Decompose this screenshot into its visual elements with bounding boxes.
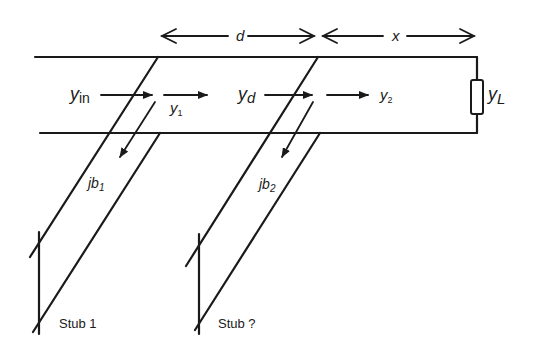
load-admittance-label: yL [486, 84, 505, 107]
stub-1-label: Stub 1 [59, 316, 97, 331]
stub-2-current-arrow-icon [282, 102, 313, 157]
admittance-y-1: y1 [164, 95, 207, 118]
stub-1-outer-conductor [30, 57, 158, 257]
load-resistor-icon [471, 80, 483, 114]
y-d-label: yd [236, 84, 256, 106]
dimension-x-label: x [391, 27, 400, 44]
dimension-d: d [162, 27, 314, 44]
stub-2-susceptance-label: jb2 [257, 176, 276, 194]
dimension-d-label: d [236, 27, 245, 44]
y-1-label: y1 [169, 99, 183, 118]
admittance-y-2: y2 [327, 86, 393, 105]
stub-2-inner-conductor [195, 133, 320, 330]
double-stub-diagram: d x yL jb1 Stub 1 jb2 Stub ? yin [0, 0, 536, 350]
dimension-x: x [323, 27, 474, 44]
stub-1-inner-conductor [33, 133, 160, 332]
y-in-label: yin [68, 84, 90, 106]
stub-1: jb1 Stub 1 [30, 57, 160, 334]
stub-1-susceptance-label: jb1 [86, 175, 104, 193]
admittance-y-d: yd [236, 84, 312, 106]
stub-2-label: Stub ? [218, 316, 256, 331]
y-2-label: y2 [379, 86, 393, 105]
